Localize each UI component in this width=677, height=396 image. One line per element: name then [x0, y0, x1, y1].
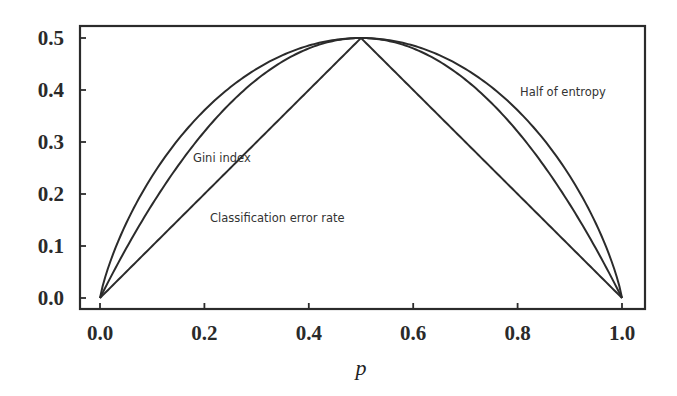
axis-ticks: [80, 38, 622, 309]
curve-classification-error-rate: [100, 38, 622, 298]
x-tick-label: 0.2: [191, 321, 217, 345]
x-tick-label: 0.6: [400, 321, 426, 345]
y-tick-label: 0.4: [38, 78, 65, 102]
label-half-entropy: Half of entropy: [520, 85, 606, 99]
y-tick-label: 0.3: [38, 130, 64, 154]
y-tick-label: 0.5: [38, 26, 64, 50]
annotations: Half of entropy Gini index Classificatio…: [193, 85, 606, 225]
curves: [100, 38, 622, 298]
y-tick-label: 0.0: [38, 286, 64, 310]
y-tick-label: 0.1: [38, 234, 64, 258]
x-axis-title: p: [354, 355, 367, 380]
y-tick-label: 0.2: [38, 182, 64, 206]
curve-half-of-entropy: [100, 38, 622, 298]
x-tick-labels: 0.00.20.40.60.81.0: [87, 321, 635, 345]
impurity-chart: 0.00.20.40.60.81.0 0.00.10.20.30.40.5 p …: [0, 0, 677, 396]
label-gini-index: Gini index: [193, 151, 251, 165]
x-tick-label: 0.8: [504, 321, 530, 345]
x-tick-label: 0.0: [87, 321, 113, 345]
x-tick-label: 1.0: [609, 321, 635, 345]
x-tick-label: 0.4: [296, 321, 323, 345]
curve-gini-index: [100, 38, 622, 298]
label-classification-error: Classification error rate: [210, 211, 345, 225]
plot-frame: [80, 26, 645, 309]
plot-border: [80, 26, 645, 309]
y-tick-labels: 0.00.10.20.30.40.5: [38, 26, 65, 310]
